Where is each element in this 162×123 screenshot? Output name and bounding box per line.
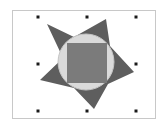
resize-handle-top-center[interactable] bbox=[86, 16, 89, 19]
scene bbox=[0, 0, 162, 123]
resize-handle-bottom-center[interactable] bbox=[86, 110, 89, 113]
square-shape[interactable] bbox=[67, 43, 107, 83]
resize-handle-top-right[interactable] bbox=[135, 16, 138, 19]
resize-handle-middle-right[interactable] bbox=[135, 63, 138, 66]
drawing-canvas[interactable] bbox=[0, 0, 162, 123]
resize-handle-top-left[interactable] bbox=[37, 16, 40, 19]
selected-shape-group[interactable] bbox=[40, 19, 134, 109]
resize-handle-middle-left[interactable] bbox=[37, 63, 40, 66]
resize-handle-bottom-right[interactable] bbox=[135, 110, 138, 113]
resize-handle-bottom-left[interactable] bbox=[37, 110, 40, 113]
